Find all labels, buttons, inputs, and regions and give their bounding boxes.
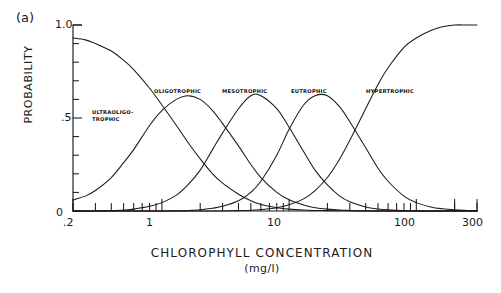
x-tick-label-0-2: .2 — [63, 216, 74, 229]
curve-hypertrophic — [73, 25, 477, 211]
axes-group — [73, 25, 477, 211]
curve-ultraoligo-trophic — [73, 38, 477, 211]
y-axis-title: PROBABILITY — [22, 25, 35, 145]
curves-group — [73, 25, 477, 211]
curve-label-hypertrophic: HYPERTROPHIC — [366, 88, 414, 95]
panel-label: (a) — [16, 10, 34, 25]
x-axis-title-text: CHLOROPHYLL CONCENTRATION — [151, 246, 374, 260]
curve-label-ultraoligotrophic-line1: ULTRAOLIGO- — [92, 109, 134, 115]
x-tick-label-10: 10 — [267, 216, 281, 229]
y-tick-label-bottom: 0 — [56, 206, 63, 219]
curve-label-oligotrophic: OLIGOTROPHIC — [154, 88, 201, 95]
x-tick-label-300: 300 — [462, 216, 483, 229]
x-axis-title: CHLOROPHYLL CONCENTRATION (mg/l) — [72, 246, 452, 276]
curve-label-eutrophic: EUTROPHIC — [291, 88, 327, 95]
x-tick-label-100: 100 — [394, 216, 415, 229]
curve-label-mesotrophic: MESOTROPHIC — [222, 88, 267, 95]
y-tick-label-mid: .5 — [61, 111, 72, 124]
y-tick-label-top: 1.0 — [55, 18, 73, 31]
axis-spines — [73, 25, 477, 211]
figure-panel-a: (a) PROBABILITY CHLOROPHYLL CONCENTRATIO… — [0, 0, 501, 293]
curve-label-ultraoligotrophic-line2: TROPHIC — [92, 116, 120, 122]
x-axis-units: (mg/l) — [244, 262, 279, 275]
x-tick-label-1: 1 — [146, 216, 153, 229]
curve-label-ultraoligotrophic: ULTRAOLIGO- TROPHIC — [92, 109, 134, 122]
curve-mesotrophic — [73, 94, 477, 211]
curve-eutrophic — [73, 94, 477, 211]
curve-oligotrophic — [73, 96, 477, 211]
